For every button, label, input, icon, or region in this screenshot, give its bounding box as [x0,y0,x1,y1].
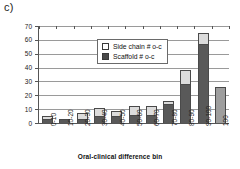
x-axis-tick-label: 90-100 [205,106,212,126]
y-axis-tick-label: 0 [12,120,32,127]
x-axis-tick-label: 60-70 [153,109,160,126]
x-axis-tick-mark [177,26,178,29]
x-axis-tick-mark [125,26,126,29]
filled-square-icon [102,53,109,60]
x-axis-tick-mark [74,26,75,29]
bar-segment-side-chain [180,70,191,84]
y-axis-tick-label: 10 [12,106,32,113]
x-axis-tick-mark [143,26,144,29]
x-axis-tick-mark [160,26,161,29]
x-axis-tick-mark [108,26,109,29]
legend-label-scaffold: Scaffold # o-c [113,53,154,60]
x-axis-tick-mark [212,26,213,29]
open-square-icon [102,43,109,50]
x-axis-tick-label: 20-30 [84,109,91,126]
x-axis-tick-label: 40-50 [119,109,126,126]
x-axis-tick-label: 0-10 [50,113,57,126]
legend-item-scaffold: Scaffold # o-c [102,53,162,60]
x-axis-tick-label: 80-90 [188,109,195,126]
bar-segment-side-chain [198,33,209,44]
x-axis-tick-label: 30-40 [101,109,108,126]
y-axis-tick-label: 20 [12,92,32,99]
x-axis-tick-label: 100 [222,115,229,126]
gridline [39,26,229,27]
x-axis-tick-label: 70-80 [171,109,178,126]
x-axis-tick-mark [39,26,40,29]
x-axis-tick-label: 10-20 [67,109,74,126]
legend-item-side-chain: Side chain # o-c [102,43,162,50]
x-axis-tick-mark [229,26,230,29]
x-axis-title: Oral-clinical difference bin [0,153,240,160]
y-axis-tick-label: 50 [12,50,32,57]
y-axis-tick-label: 30 [12,78,32,85]
legend-label-side-chain: Side chain # o-c [113,43,162,50]
x-axis-tick-mark [56,26,57,29]
bar-chart: 010203040506070 0-1010-2020-3030-4040-50… [0,0,240,169]
x-axis-tick-label: 50-60 [136,109,143,126]
y-axis-tick-label: 70 [12,23,32,30]
y-axis-tick-label: 40 [12,64,32,71]
y-axis-tick-label: 60 [12,36,32,43]
x-axis-tick-mark [194,26,195,29]
chart-legend: Side chain # o-c Scaffold # o-c [97,39,168,64]
x-axis-tick-mark [91,26,92,29]
